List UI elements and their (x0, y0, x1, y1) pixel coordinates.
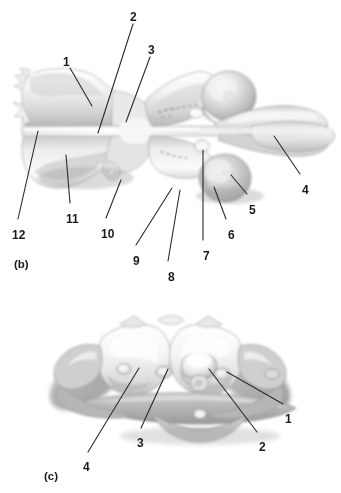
callout-label-c-1: 1 (285, 413, 292, 425)
callout-label-b-11: 11 (66, 213, 79, 225)
callout-label-b-10: 10 (101, 228, 114, 240)
figure-panel-c: (c) 1234 (0, 290, 341, 493)
callout-label-b-12: 12 (12, 229, 25, 241)
panel-c-caption: (c) (44, 470, 58, 482)
callout-label-b-1: 1 (63, 56, 70, 68)
callout-label-c-2: 2 (259, 441, 266, 453)
callout-label-c-4: 4 (83, 461, 90, 473)
callout-label-b-2: 2 (130, 11, 137, 23)
callout-label-b-9: 9 (133, 255, 140, 267)
panel-b-caption: (b) (14, 258, 29, 270)
callout-label-b-3: 3 (148, 44, 155, 56)
callout-label-b-6: 6 (228, 229, 235, 241)
vertebra-cranial-illustration (0, 290, 341, 493)
callout-label-c-3: 3 (137, 437, 144, 449)
callout-label-b-8: 8 (168, 271, 175, 283)
callout-label-b-4: 4 (302, 184, 309, 196)
figure-root: (b) 123456789101112 (0, 0, 341, 493)
callout-label-b-7: 7 (203, 250, 210, 262)
figure-panel-b: (b) 123456789101112 (0, 0, 341, 290)
vertebra-dorsal-illustration (0, 0, 341, 290)
callout-label-b-5: 5 (249, 204, 256, 216)
